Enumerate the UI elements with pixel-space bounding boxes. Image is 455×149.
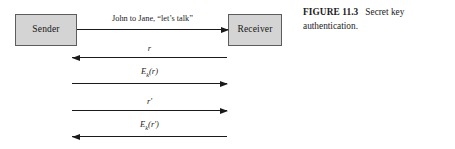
figure-secret-key-authentication: Sender Receiver John to Jane, “let’s tal… [0, 0, 455, 149]
arrow-line-response-ekrprime [72, 136, 227, 137]
message-arrow-challenge-rprime: r′ [72, 89, 227, 111]
actor-box-sender: Sender [15, 14, 77, 46]
arrow-line-initiate [77, 29, 228, 30]
actor-box-receiver: Receiver [228, 14, 282, 46]
actor-label-receiver: Receiver [238, 25, 273, 35]
figure-caption-number: FIGURE 11.3 [303, 7, 358, 17]
arrowhead-right-icon [220, 81, 228, 87]
arrow-line-challenge-r [72, 57, 227, 58]
message-label-challenge-rprime: r′ [72, 97, 227, 106]
actor-label-sender: Sender [32, 25, 59, 35]
message-label-initiate: John to Jane, “let’s talk” [77, 15, 228, 23]
figure-caption: FIGURE 11.3Secret key authentication. [303, 6, 451, 33]
label-argument-r: (r) [149, 66, 158, 76]
message-arrow-response-ekr: Ek(r) [72, 62, 227, 84]
message-label-response-ekr: Ek(r) [72, 67, 227, 78]
arrowhead-right-icon [220, 108, 228, 114]
arrowhead-left-icon [72, 55, 80, 61]
message-arrow-response-ekrprime: Ek(r′) [72, 115, 227, 137]
arrowhead-left-icon [72, 134, 80, 140]
message-label-challenge-r: r [72, 44, 227, 53]
message-label-response-ekrprime: Ek(r′) [72, 120, 227, 131]
message-arrow-challenge-r: r [72, 36, 227, 58]
label-argument-rprime: (r′) [148, 119, 159, 129]
message-arrow-initiate: John to Jane, “let’s talk” [77, 8, 228, 30]
arrow-line-challenge-rprime [72, 110, 227, 111]
arrow-line-response-ekr [72, 83, 227, 84]
arrowhead-right-icon [221, 27, 229, 33]
